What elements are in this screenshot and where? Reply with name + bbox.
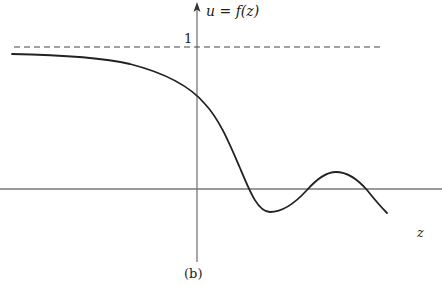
- figure: 1 u = f(z) z (b): [0, 0, 442, 286]
- y-axis-label: u = f(z): [206, 3, 259, 19]
- figure-caption: (b): [184, 266, 202, 281]
- plot-canvas: [0, 0, 442, 286]
- asymptote-label: 1: [184, 31, 192, 46]
- x-axis-label: z: [417, 225, 424, 240]
